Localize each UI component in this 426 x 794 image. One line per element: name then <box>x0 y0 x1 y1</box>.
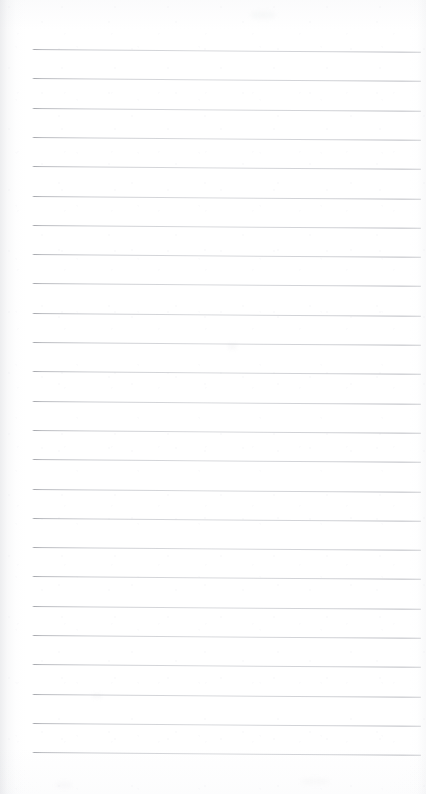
scanned-page: Blank lined notepad page <box>0 0 426 794</box>
paper-surface <box>0 0 426 794</box>
